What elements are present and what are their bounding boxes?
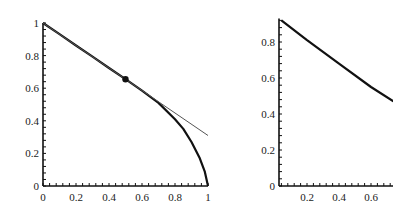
x-tick-label: 0.6: [135, 191, 149, 203]
x-tick-label: 0.2: [300, 191, 314, 203]
y-tick-label: 0.8: [261, 36, 275, 48]
x-tick-label: 1: [205, 191, 211, 203]
y-tick-label: 0: [270, 180, 276, 192]
curve-line: [43, 23, 208, 186]
y-tick-label: 0.4: [25, 115, 39, 127]
y-tick-label: 0.2: [261, 144, 275, 156]
chart-panel-2: 0.20.40.600.20.40.60.8: [261, 19, 393, 203]
chart-panel-1: 00.20.40.60.8100.20.40.60.81: [25, 17, 211, 203]
y-tick-label: 1: [34, 17, 40, 29]
marked-point: [122, 76, 128, 82]
curve-line: [281, 20, 393, 101]
x-tick-label: 0.4: [102, 191, 116, 203]
y-tick-label: 0.4: [261, 108, 275, 120]
y-tick-label: 0.6: [261, 72, 275, 84]
x-tick-label: 0: [40, 191, 46, 203]
chart-canvas: 00.20.40.60.8100.20.40.60.810.20.40.600.…: [0, 0, 393, 217]
x-tick-label: 0.8: [168, 191, 182, 203]
y-tick-label: 0.2: [25, 147, 39, 159]
y-tick-label: 0.6: [25, 82, 39, 94]
x-tick-label: 0.4: [332, 191, 346, 203]
x-tick-label: 0.2: [69, 191, 83, 203]
y-tick-label: 0: [34, 180, 40, 192]
x-tick-label: 0.6: [364, 191, 378, 203]
y-tick-label: 0.8: [25, 50, 39, 62]
